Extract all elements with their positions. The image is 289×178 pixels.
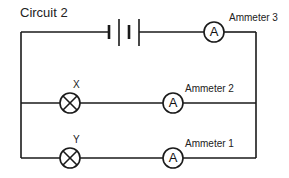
lamp-x-icon (60, 93, 80, 113)
ammeter-1-label: Ammeter 1 (185, 138, 234, 149)
battery-icon (109, 19, 139, 46)
ammeter-2-label: Ammeter 2 (185, 83, 234, 94)
lamp-y-icon (60, 148, 80, 168)
ammeter-1-symbol: A (163, 150, 183, 165)
circuit-diagram (0, 0, 289, 178)
ammeter-3-symbol: A (204, 24, 224, 39)
lamp-x-label: X (73, 79, 80, 90)
ammeter-3-label: Ammeter 3 (229, 12, 278, 23)
ammeter-2-symbol: A (163, 95, 183, 110)
lamp-y-label: Y (73, 134, 80, 145)
